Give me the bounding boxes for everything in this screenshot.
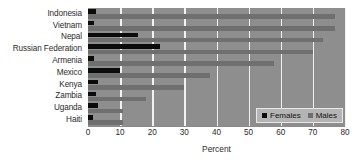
legend-label: Males (316, 111, 337, 120)
x-tick-label: 80 (340, 129, 349, 137)
category-label: Kenya (0, 79, 85, 91)
bar-males (88, 50, 313, 55)
bar-row (88, 20, 345, 32)
bar-females (88, 33, 138, 38)
category-label: Zambia (0, 91, 85, 103)
bar-males (88, 61, 274, 66)
bar-females (88, 9, 96, 14)
bar-females (88, 92, 96, 97)
bar-females (88, 80, 98, 85)
legend-swatch-icon (308, 113, 313, 118)
bar-females (88, 115, 93, 120)
x-tick-label: 50 (244, 129, 253, 137)
bar-females (88, 103, 98, 108)
x-tick-label: 60 (276, 129, 285, 137)
legend-entry: Females (262, 111, 301, 120)
bar-row (88, 32, 345, 44)
x-tick-label: 0 (86, 129, 91, 137)
bar-females (88, 44, 160, 49)
bar-males (88, 120, 123, 125)
bar-males (88, 109, 123, 114)
category-label: Uganda (0, 102, 85, 114)
x-tick-label: 40 (212, 129, 221, 137)
legend-label: Females (270, 111, 301, 120)
x-tick-label: 70 (308, 129, 317, 137)
bar-females (88, 21, 94, 26)
chart-legend: FemalesMales (256, 108, 343, 123)
category-label: Haiti (0, 114, 85, 126)
category-label: Russian Federation (0, 43, 85, 55)
x-axis-tick-labels: 01020304050607080 (88, 129, 345, 141)
x-tick-label: 30 (180, 129, 189, 137)
bar-row (88, 55, 345, 67)
bar-row (88, 79, 345, 91)
gridline (345, 8, 346, 126)
bar-males (88, 26, 335, 31)
bar-row (88, 67, 345, 79)
x-axis-line (88, 126, 345, 127)
bar-males (88, 38, 323, 43)
bar-males (88, 14, 335, 19)
x-tick-label: 20 (148, 129, 157, 137)
category-label: Mexico (0, 67, 85, 79)
bar-males (88, 85, 184, 90)
bar-females (88, 68, 120, 73)
bar-row (88, 8, 345, 20)
bar-row (88, 91, 345, 103)
bar-males (88, 73, 210, 78)
category-label: Vietnam (0, 20, 85, 32)
category-label: Nepal (0, 32, 85, 44)
bar-females (88, 56, 94, 61)
x-axis-title: Percent (88, 144, 345, 154)
category-label: Indonesia (0, 8, 85, 20)
legend-swatch-icon (262, 113, 267, 118)
bar-chart: IndonesiaVietnamNepalRussian FederationA… (0, 0, 359, 168)
y-axis-category-labels: IndonesiaVietnamNepalRussian FederationA… (0, 8, 85, 126)
bar-row (88, 43, 345, 55)
legend-entry: Males (308, 111, 337, 120)
x-tick-label: 10 (116, 129, 125, 137)
category-label: Armenia (0, 55, 85, 67)
bar-males (88, 97, 146, 102)
